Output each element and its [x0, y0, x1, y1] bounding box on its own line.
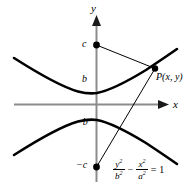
x-axis-label: x: [173, 99, 178, 110]
lower-focus-label: −c: [76, 160, 87, 170]
equation-numerator-y: y2: [113, 158, 124, 169]
upper-vertex-label: b: [82, 74, 87, 84]
hyperbola-equation: y2 b2 − x2 a2 = 1: [112, 158, 164, 181]
hyperbola-figure: y x c b −b −c P(x, y) y2 b2 − x2 a2 = 1: [0, 0, 191, 194]
equation-right-hand-side: 1: [159, 165, 164, 175]
equation-denominator-a: a2: [136, 170, 148, 181]
lower-vertex-label: −b: [76, 117, 88, 127]
x-axis-arrowhead: [158, 100, 169, 109]
point-p-label: P(x, y): [156, 72, 183, 82]
upper-focus-label: c: [82, 39, 86, 49]
upper-focus-point: [93, 42, 100, 49]
y-axis-arrowhead: [92, 15, 101, 26]
equation-fraction-y: y2 b2: [113, 158, 125, 181]
equation-minus-operator: −: [128, 165, 134, 175]
equation-denominator-b: b2: [113, 170, 125, 181]
equation-equals-sign: =: [151, 165, 157, 175]
focal-radius-lower-segment: [97, 69, 156, 168]
y-axis-label: y: [91, 3, 96, 14]
focal-radius-upper-segment: [97, 45, 156, 69]
lower-focus-point: [93, 164, 100, 171]
equation-fraction-x: x2 a2: [136, 158, 148, 181]
equation-numerator-x: x2: [136, 158, 147, 169]
